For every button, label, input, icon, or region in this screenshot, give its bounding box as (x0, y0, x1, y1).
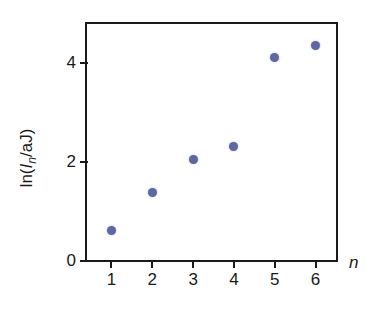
y-axis-tick-label: 4 (67, 53, 76, 70)
data-point (107, 226, 116, 235)
x-axis-tick-label: 3 (188, 271, 197, 288)
x-axis-title: n (349, 253, 358, 273)
x-axis-tick-label: 5 (270, 271, 279, 288)
x-axis-tick (151, 260, 153, 268)
plot-frame: 024123456 (85, 22, 338, 262)
x-axis-tick (233, 260, 235, 268)
x-axis-tick-label: 4 (229, 271, 238, 288)
y-axis-tick (80, 161, 88, 163)
x-axis-tick (192, 260, 194, 268)
figure: ln(In/aJ) n 024123456 (0, 0, 379, 316)
x-axis-tick (274, 260, 276, 268)
y-axis-title-variable: I (17, 164, 36, 169)
x-axis-tick (315, 260, 317, 268)
data-point (270, 53, 279, 62)
y-axis-tick-label: 0 (67, 252, 76, 269)
y-axis-title-subscript: n (25, 157, 39, 164)
plot-area: 024123456 (87, 24, 336, 260)
y-axis-tick (80, 62, 88, 64)
data-point (148, 188, 157, 197)
y-axis-title-prefix: ln( (17, 168, 36, 187)
x-axis-tick-label: 6 (311, 271, 320, 288)
y-axis-title: ln(In/aJ) (17, 129, 38, 188)
x-axis-tick (110, 260, 112, 268)
y-axis-tick-label: 2 (67, 152, 76, 169)
x-axis-tick-label: 2 (148, 271, 157, 288)
x-axis-tick-label: 1 (107, 271, 116, 288)
data-point (311, 41, 320, 50)
data-point (229, 142, 238, 151)
y-axis-title-suffix: /aJ) (17, 129, 36, 157)
data-point (189, 155, 198, 164)
y-axis-tick (80, 260, 88, 262)
